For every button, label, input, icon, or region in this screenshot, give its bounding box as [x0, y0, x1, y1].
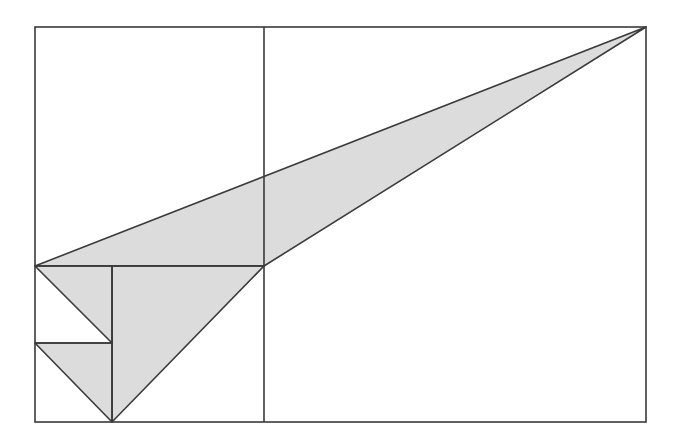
- lower-small-triangle: [35, 343, 112, 422]
- golden-rectangle-diagram: [0, 0, 679, 441]
- shaded-triangles: [35, 27, 646, 422]
- large-triangle: [35, 27, 646, 266]
- upper-small-triangle: [35, 266, 112, 343]
- medium-triangle: [112, 266, 264, 422]
